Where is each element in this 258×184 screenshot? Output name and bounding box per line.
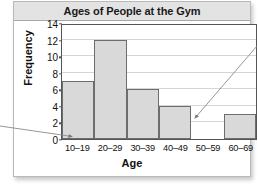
bar-series [62,25,256,139]
chart-title: Ages of People at the Gym [64,5,201,17]
y-axis-tick-mark [59,23,62,24]
y-axis-tick-label: 12 [47,35,58,46]
bar-cell [127,25,159,139]
y-axis-tick-label: 2 [52,118,58,129]
x-axis-tick-labels: 10–1920–2930–3940–4950–5960–69 [61,143,257,153]
chart-card: Ages of People at the Gym Frequency 0246… [13,1,251,177]
x-axis-tick-label: 10–19 [61,143,94,153]
y-axis-tick-mark [59,139,62,140]
bar [224,114,256,139]
bar-cell [224,25,256,139]
x-axis-tick-label: 30–39 [126,143,159,153]
x-axis-tick-label: 60–69 [224,143,257,153]
y-axis-tick-mark [59,40,62,41]
y-axis-tick-label: 4 [52,101,58,112]
bar [159,106,191,139]
plot-area [61,24,257,140]
y-axis-tick-mark [59,73,62,74]
y-axis-tick-label: 14 [47,19,58,30]
bar [62,81,94,139]
y-axis-tick-mark [59,106,62,107]
y-axis-tick-label: 10 [47,52,58,63]
y-axis-tick-mark [59,90,62,91]
bar-cell [94,25,126,139]
bar [94,40,126,139]
bar [127,89,159,139]
bar-cell [191,25,223,139]
x-axis-tick-label: 50–59 [192,143,225,153]
bar-cell [62,25,94,139]
x-axis-title: Age [14,157,250,169]
y-axis-tick-label: 8 [52,68,58,79]
y-axis-title: Frequency [22,20,34,96]
y-axis-tick-label: 6 [52,85,58,96]
x-axis-tick-label: 40–49 [159,143,192,153]
bar-cell [159,25,191,139]
y-axis-tick-label: 0 [52,135,58,146]
y-axis-tick-mark [59,56,62,57]
y-axis-tick-mark [59,123,62,124]
x-axis-tick-label: 20–29 [94,143,127,153]
